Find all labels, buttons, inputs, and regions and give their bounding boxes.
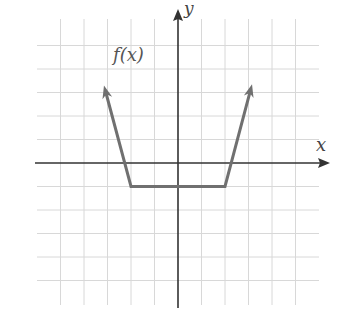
function-label: f(x) [113, 44, 144, 65]
function-graph [0, 0, 348, 311]
axes [35, 9, 330, 308]
y-axis-label: y [184, 0, 194, 18]
x-axis-label: x [316, 134, 326, 155]
